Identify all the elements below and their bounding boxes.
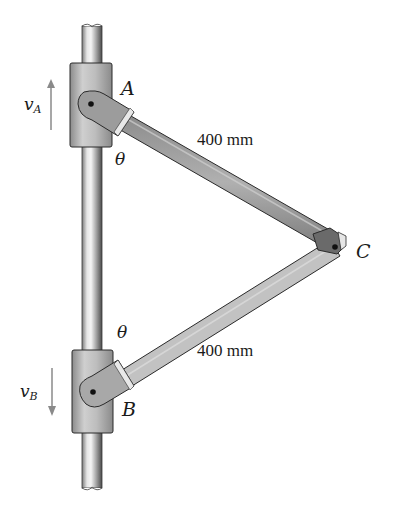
velocity-arrow-up-icon xyxy=(47,79,55,130)
link-BC xyxy=(122,240,340,386)
collar-A xyxy=(70,63,134,147)
mechanism-drawing xyxy=(0,0,393,508)
pin-C xyxy=(313,228,346,254)
dimension-label-AC: 400 mm xyxy=(197,131,253,148)
point-label-C: C xyxy=(356,242,371,261)
velocity-label-vB: vB xyxy=(20,383,38,402)
dimension-label-BC: 400 mm xyxy=(197,342,253,359)
linkage-diagram: A B C θ θ vA vB 400 mm 400 mm xyxy=(0,0,393,508)
velocity-label-vA: vA xyxy=(24,96,42,115)
velocity-symbol: v xyxy=(20,381,30,401)
point-label-A: A xyxy=(121,79,135,98)
angle-theta-top: θ xyxy=(115,151,125,168)
collar-B xyxy=(72,350,134,433)
point-label-B: B xyxy=(122,400,136,419)
velocity-symbol: v xyxy=(24,94,34,114)
angle-theta-bottom: θ xyxy=(117,324,127,341)
velocity-subscript: B xyxy=(30,390,38,403)
velocity-subscript: A xyxy=(34,103,42,116)
velocity-arrow-down-icon xyxy=(48,368,56,416)
